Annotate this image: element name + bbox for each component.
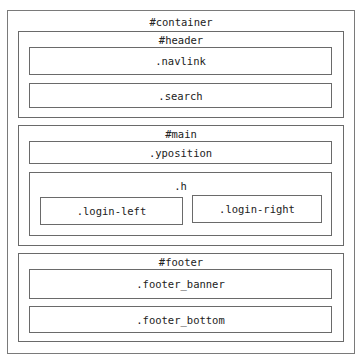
login-left-box: .login-left xyxy=(40,197,183,225)
login-right-label: .login-right xyxy=(193,203,321,215)
yposition-box: .yposition xyxy=(29,141,332,164)
container-title: #container xyxy=(8,16,354,28)
login-right-box: .login-right xyxy=(192,195,322,223)
yposition-label: .yposition xyxy=(30,147,331,159)
footer-banner-label: .footer_banner xyxy=(30,278,331,290)
search-label: .search xyxy=(30,90,331,102)
main-title: #main xyxy=(19,128,343,140)
navlink-label: .navlink xyxy=(30,55,331,67)
header-title: #header xyxy=(19,34,343,46)
navlink-box: .navlink xyxy=(29,47,332,75)
login-left-label: .login-left xyxy=(41,205,182,217)
search-box: .search xyxy=(29,83,332,108)
footer-banner-box: .footer_banner xyxy=(29,269,332,299)
footer-title: #footer xyxy=(19,256,343,268)
footer-bottom-box: .footer_bottom xyxy=(29,306,332,333)
footer-bottom-label: .footer_bottom xyxy=(30,314,331,326)
h-title: .h xyxy=(30,180,331,192)
